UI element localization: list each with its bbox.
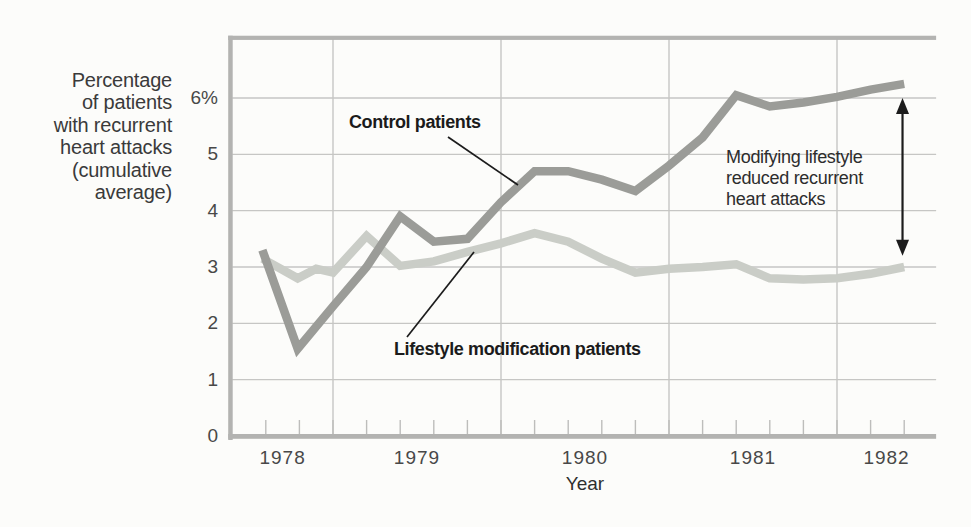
top-border-line (228, 36, 936, 40)
x-axis-title: Year (545, 473, 625, 495)
y-tick-label: 1 (148, 369, 218, 391)
y-tick-label: 2 (148, 312, 218, 334)
y-tick-label: 6% (148, 87, 218, 109)
difference-arrow-head-top (896, 98, 909, 114)
x-axis-line (228, 434, 936, 439)
x-tick-label: 1981 (711, 447, 795, 469)
y-axis-line (228, 36, 233, 440)
y-tick-label: 5 (148, 143, 218, 165)
control-series-label: Control patients (349, 112, 481, 133)
difference-arrow-head-bottom (896, 240, 909, 256)
difference-annotation: Modifying lifestyle reduced recurrent he… (726, 147, 863, 210)
control-callout-line (448, 137, 518, 185)
x-tick-label: 1979 (375, 447, 459, 469)
chart-figure: Percentage of patients with recurrent he… (0, 0, 971, 527)
y-tick-label: 3 (148, 256, 218, 278)
y-tick-label: 0 (148, 425, 218, 447)
x-tick-label: 1980 (543, 447, 627, 469)
x-tick-label: 1978 (241, 447, 325, 469)
x-tick-label: 1982 (845, 447, 929, 469)
lifestyle-series-label: Lifestyle modification patients (394, 339, 641, 360)
y-tick-label: 4 (148, 200, 218, 222)
